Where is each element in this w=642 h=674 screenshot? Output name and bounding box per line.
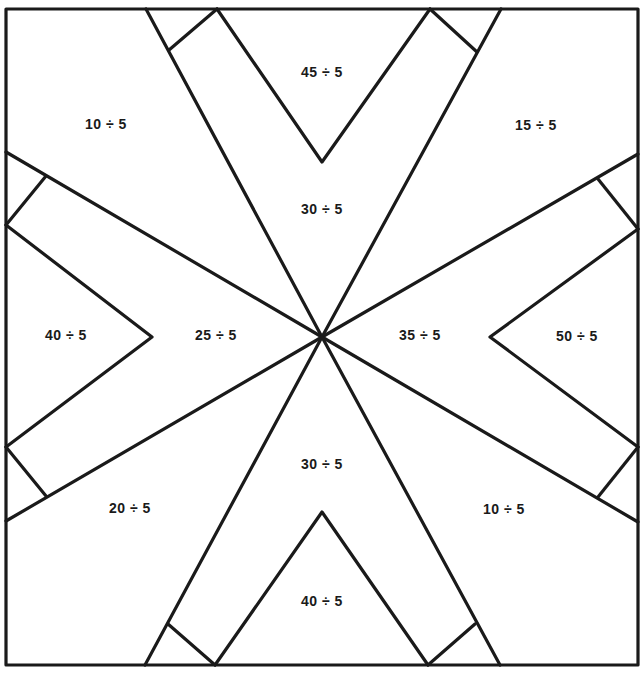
right-bottom-tab [598,447,638,497]
ray-top-left [146,9,322,337]
ray-right-top [322,154,638,337]
top-left-tab [169,9,217,50]
region-label-bottom-left: 20 ÷ 5 [109,500,151,516]
ray-right-bottom [322,337,638,522]
region-label-top-right: 15 ÷ 5 [515,117,557,133]
ray-top-right [322,9,501,337]
top-arrow [217,9,430,162]
region-label-bottom-right: 10 ÷ 5 [483,501,525,517]
ray-bottom-right [322,337,500,665]
left-top-tab [6,176,46,225]
bottom-arrow [215,512,428,665]
region-label-left-inner: 25 ÷ 5 [195,327,237,343]
right-top-tab [598,179,638,229]
ray-left-bottom [6,337,322,521]
region-label-lower-center: 30 ÷ 5 [301,456,343,472]
ray-left-top [6,152,322,337]
top-right-tab [430,9,477,52]
region-label-right-outer: 50 ÷ 5 [556,328,598,344]
region-label-upper-center: 30 ÷ 5 [301,201,343,217]
ray-bottom-left [145,337,322,665]
worksheet-line-art [0,0,642,674]
region-label-top-center: 45 ÷ 5 [301,64,343,80]
bottom-right-tab [428,624,475,665]
region-label-bottom-center: 40 ÷ 5 [301,593,343,609]
bottom-left-tab [168,624,215,665]
left-bottom-tab [6,447,46,496]
region-label-right-inner: 35 ÷ 5 [399,327,441,343]
region-label-left-outer: 40 ÷ 5 [45,327,87,343]
region-label-top-left: 10 ÷ 5 [85,116,127,132]
